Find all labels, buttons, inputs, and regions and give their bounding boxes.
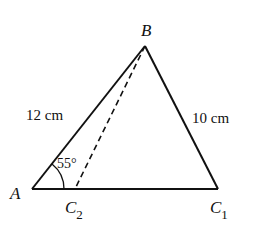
vertex-a-label: A: [9, 184, 21, 203]
vertex-c2-label: C2: [65, 198, 83, 222]
vertex-b-label: B: [141, 21, 152, 40]
side-bc2-dashed: [75, 46, 145, 189]
side-bc1-length-label: 10 cm: [192, 110, 229, 126]
vertex-c1-label: C1: [210, 198, 228, 222]
angle-a-label: 55°: [57, 156, 77, 171]
side-ab-length-label: 12 cm: [26, 107, 63, 123]
triangle-diagram: B A C2 C1 12 cm 10 cm 55°: [0, 0, 260, 231]
